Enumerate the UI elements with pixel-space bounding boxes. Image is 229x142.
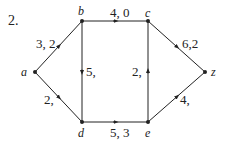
node-z [203, 70, 207, 74]
edge-label-a-d: 2, [44, 93, 54, 106]
nodes [33, 19, 207, 124]
problem-number: 2. [8, 14, 19, 28]
edge-label-e-c: 2, [132, 65, 142, 78]
node-label-b: b [78, 5, 84, 17]
edge-label-c-z: 6,2 [182, 37, 198, 50]
arrow-icon [57, 96, 59, 98]
node-label-c: c [145, 7, 150, 19]
node-label-e: e [145, 127, 150, 139]
node-a [33, 70, 37, 74]
edge-a-d [35, 72, 82, 122]
arrow-icon [175, 45, 177, 47]
node-e [146, 120, 150, 124]
arrow-icon [175, 96, 177, 98]
edge-label-b-c: 4, 0 [110, 6, 130, 19]
node-d [80, 120, 84, 124]
node-label-d: d [78, 127, 84, 139]
edge-label-a-b: 3, 2 [36, 37, 56, 50]
network-flow-diagram [0, 0, 229, 142]
node-b [80, 19, 84, 23]
node-label-a: a [21, 66, 27, 78]
arrow-icon [57, 46, 59, 48]
edge-label-d-e: 5, 3 [110, 126, 130, 139]
edge-e-z [148, 72, 205, 122]
edge-label-e-z: 4, [180, 93, 190, 106]
node-label-z: z [211, 66, 216, 78]
edge-label-b-d: 5, [86, 65, 96, 78]
